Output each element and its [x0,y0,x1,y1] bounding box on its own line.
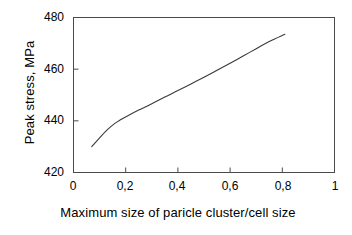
plot-frame [74,18,335,173]
plot-area [0,0,352,235]
chart-figure: Peak stress, MPa 480 460 440 420 0 0,2 0… [0,0,352,235]
